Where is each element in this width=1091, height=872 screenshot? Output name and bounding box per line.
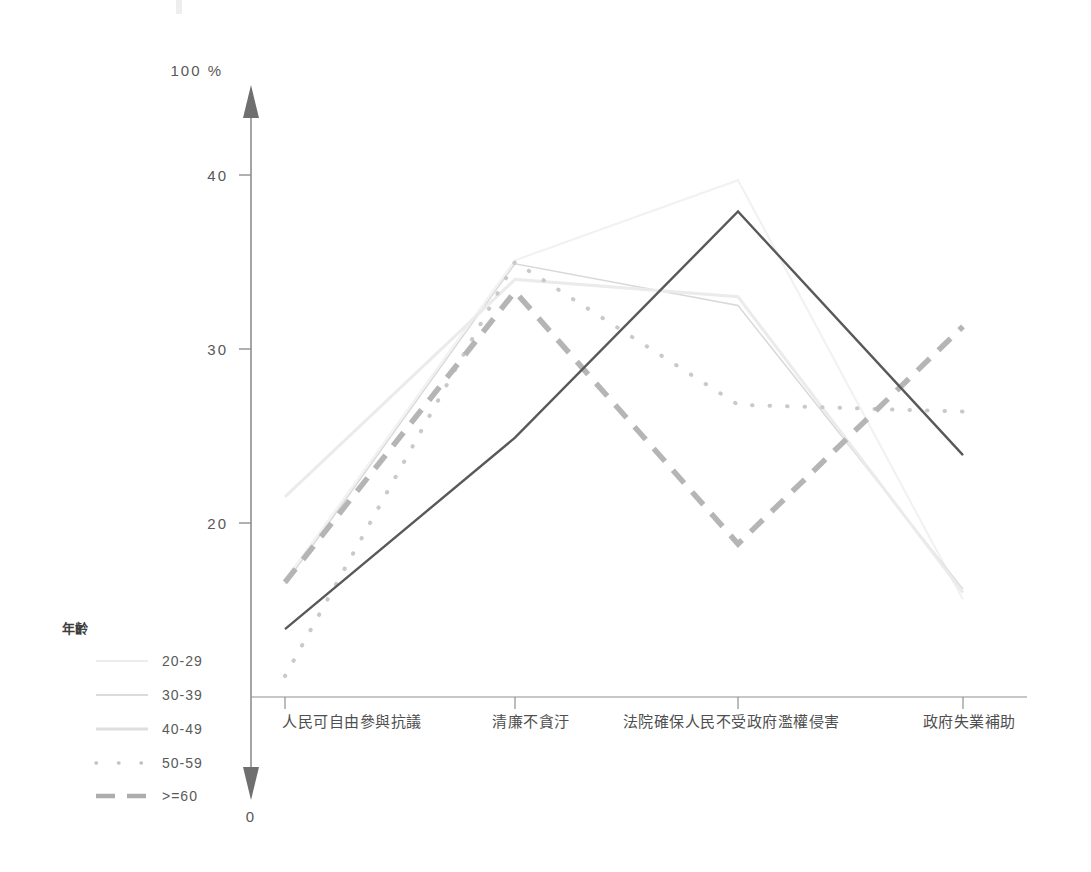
legend-item-gte-60[interactable]: >=60 (96, 788, 198, 804)
x-axis (251, 697, 1027, 709)
series-line-main-dark (285, 212, 963, 630)
x-category-label-1: 清廉不貪汙 (492, 713, 570, 730)
series-line-50-59 (285, 262, 963, 676)
x-category-label-2: 法院確保人民不受政府濫權侵害 (623, 713, 840, 730)
y-axis-arrow-up (243, 85, 259, 118)
x-category-label-3: 政府失業補助 (923, 713, 1016, 730)
legend-label-30-39: 30-39 (162, 687, 203, 703)
data-series-layer (285, 180, 963, 676)
legend-label-40-49: 40-49 (162, 721, 203, 737)
legend-item-40-49[interactable]: 40-49 (96, 721, 203, 737)
legend-title: 年齡 (62, 621, 88, 636)
legend-item-30-39[interactable]: 30-39 (96, 687, 203, 703)
legend-item-50-59[interactable]: 50-59 (96, 755, 203, 771)
legend-label-20-29: 20-29 (162, 653, 203, 669)
y-axis-arrow-down (243, 767, 259, 800)
legend-label-50-59: 50-59 (162, 755, 203, 771)
y-axis-top-label: 100 % (170, 62, 223, 79)
legend: 年齡 20-29 30-39 40-49 50-59 >=60 (62, 621, 203, 804)
series-line->=60 (285, 292, 963, 583)
y-axis-ticks (239, 175, 251, 523)
legend-label-gte-60: >=60 (162, 788, 198, 804)
chart-container: 100 % 40 30 20 0 人民可自由參與抗議 清廉不貪汙 法院確保人民不… (0, 0, 1091, 872)
series-line-20-29 (285, 180, 963, 599)
legend-item-20-29[interactable]: 20-29 (96, 653, 203, 669)
x-category-label-0: 人民可自由參與抗議 (282, 713, 422, 730)
y-axis-origin-label: 0 (246, 808, 256, 825)
line-chart: 100 % 40 30 20 0 人民可自由參與抗議 清廉不貪汙 法院確保人民不… (0, 0, 1091, 872)
y-axis (243, 85, 259, 800)
y-tick-label-30: 30 (207, 341, 228, 358)
y-tick-label-20: 20 (207, 515, 228, 532)
y-tick-label-40: 40 (207, 167, 228, 184)
